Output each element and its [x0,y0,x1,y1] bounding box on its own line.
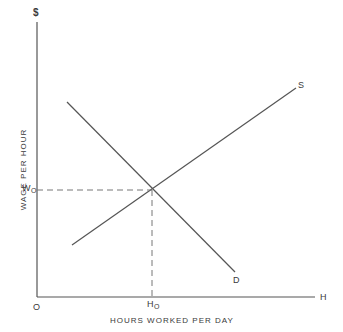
demand-curve-label: D [233,275,240,285]
hours-symbol: H [147,299,154,309]
supply-curve [72,88,296,245]
origin-label: O [33,302,41,312]
supply-curve-label: S [298,80,305,90]
equilibrium-hours-label: HO [147,299,160,309]
demand-curve [67,102,235,272]
x-axis-label: HOURS WORKED PER DAY [110,316,234,325]
y-axis-symbol: $ [33,7,39,18]
hours-subscript: O [154,303,160,310]
y-axis-label: WAGE PER HOUR [19,115,28,225]
diagram-canvas [0,0,343,332]
wage-subscript: O [31,187,37,194]
x-axis-symbol: H [320,292,327,302]
